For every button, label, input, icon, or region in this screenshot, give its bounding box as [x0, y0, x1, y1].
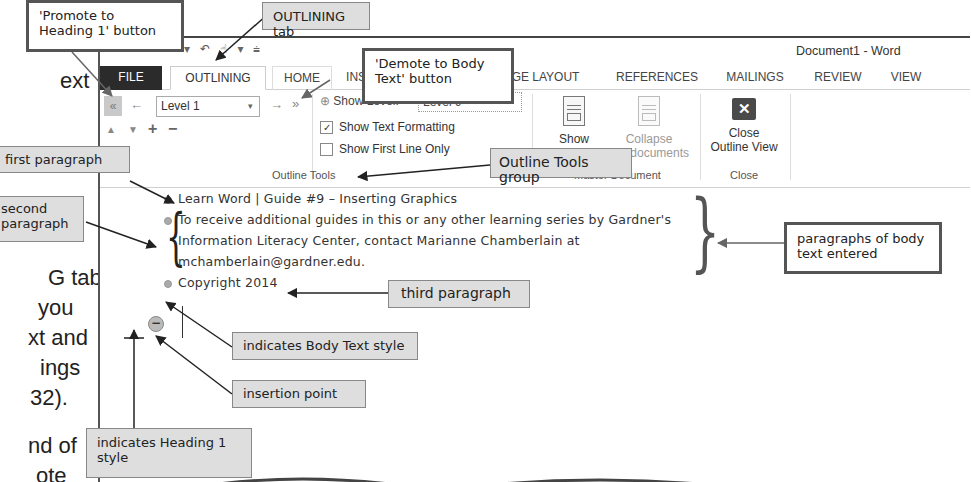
collapse-subdocuments-label: Collapse: [606, 132, 692, 146]
callout-outline-tools-group: Outline Tools group: [490, 148, 632, 178]
margin-line: you: [38, 295, 73, 321]
callout-outlining-tab: OUTLINING tab: [262, 2, 370, 30]
move-down-button[interactable]: ▼: [128, 124, 138, 135]
show-first-line-only-label: Show First Line Only: [339, 142, 450, 156]
tab-file[interactable]: FILE: [100, 66, 162, 90]
callout-second-paragraph: second paragraph: [0, 196, 84, 242]
paragraph-2-line-1[interactable]: To receive additional guides in this or …: [178, 209, 671, 230]
show-document-label: Show: [544, 132, 604, 146]
callout-second-paragraph-line1: second: [1, 201, 77, 216]
show-text-formatting-checkbox[interactable]: ✓ Show Text Formatting: [320, 120, 455, 134]
show-level-icon: ⊕: [320, 94, 330, 108]
paragraph-2-line-2[interactable]: Information Literacy Center, contact Mar…: [178, 230, 580, 251]
tab-mailings[interactable]: MAILINGS: [720, 66, 790, 90]
tab-home[interactable]: HOME: [272, 66, 332, 90]
promote-to-heading1-button[interactable]: «: [104, 96, 122, 116]
margin-line: ote: [36, 463, 67, 482]
callout-heading1-style: indicates Heading 1 style: [86, 428, 252, 478]
dropdown-icon[interactable]: ▾: [237, 42, 243, 56]
tab-view[interactable]: VIEW: [884, 66, 928, 90]
undo-icon[interactable]: ↶: [200, 42, 210, 56]
promote-button[interactable]: ←: [130, 97, 143, 112]
group-separator: [700, 94, 701, 180]
chevron-down-icon: ▾: [248, 97, 253, 116]
close-group-label: Close: [730, 169, 758, 181]
checkbox-unchecked-icon: [320, 143, 333, 156]
callout-first-paragraph: first paragraph: [0, 146, 130, 173]
callout-body-text-style: indicates Body Text style: [232, 332, 418, 360]
tab-outlining[interactable]: OUTLINING: [170, 66, 266, 90]
demote-button[interactable]: →: [270, 97, 283, 112]
callout-insertion-point: insertion point: [232, 380, 366, 408]
show-document-icon: [563, 96, 585, 126]
tab-references[interactable]: REFERENCES: [612, 66, 702, 90]
margin-line: nd of: [28, 433, 77, 459]
paragraph-1[interactable]: Learn Word | Guide #9 – Inserting Graphi…: [178, 188, 457, 209]
ribbon-tabs: FILE OUTLINING HOME INSERT DESIGN PAGE L…: [100, 64, 970, 90]
callout-demote-body-text: 'Demote to Body Text' button: [362, 48, 514, 104]
touch-mode-icon[interactable]: ☝: [220, 42, 227, 56]
margin-line: ext: [60, 68, 89, 94]
right-brace-bracket: }: [690, 188, 720, 274]
checkbox-checked-icon: ✓: [320, 121, 333, 134]
group-separator: [790, 94, 791, 180]
outline-tools-group-label: Outline Tools: [272, 169, 335, 181]
collapse-button[interactable]: −: [168, 120, 177, 138]
paragraph-2-line-3[interactable]: mchamberlain@gardner.edu.: [178, 251, 365, 272]
expand-button[interactable]: +: [148, 120, 157, 138]
show-text-formatting-label: Show Text Formatting: [339, 120, 455, 134]
margin-line: ings: [40, 355, 80, 381]
callout-paragraphs-body-text-entered: paragraphs of body text entered: [784, 222, 942, 274]
outline-level-select[interactable]: Level 1 ▾: [156, 96, 260, 117]
callout-promote-heading1: 'Promote to Heading 1' button: [26, 0, 184, 52]
title-bar: ▾ ↶ ☝ ▾ ⩧ Document1 - Word: [100, 38, 970, 64]
insertion-point: [182, 306, 183, 338]
body-text-bullet-icon: [164, 280, 172, 288]
close-outline-view-label-2: Outline View: [704, 140, 784, 154]
customize-qat-icon[interactable]: ⩧: [253, 42, 260, 56]
margin-line: G tab |: [48, 265, 100, 291]
heading1-collapse-icon[interactable]: −: [148, 316, 164, 332]
margin-line: 32).: [30, 385, 68, 411]
callout-third-paragraph: third paragraph: [388, 280, 530, 308]
window-title: Document1 - Word: [796, 44, 901, 58]
tab-review[interactable]: REVIEW: [808, 66, 868, 90]
show-first-line-only-checkbox[interactable]: Show First Line Only: [320, 142, 450, 156]
close-outline-view-label: Close: [704, 126, 784, 140]
quick-access-toolbar: ▾ ↶ ☝ ▾ ⩧: [184, 42, 260, 56]
margin-line: xt and: [28, 325, 88, 351]
group-separator: [312, 94, 313, 180]
demote-to-body-text-button[interactable]: »: [292, 96, 296, 111]
save-icon[interactable]: ▾: [184, 42, 190, 56]
paragraph-3[interactable]: Copyright 2014: [178, 272, 278, 293]
outline-level-value: Level 1: [161, 99, 200, 113]
collapse-subdocuments-icon: [638, 96, 660, 126]
close-icon: ✕: [732, 98, 756, 120]
move-up-button[interactable]: ▲: [106, 124, 116, 135]
close-outline-view-button[interactable]: ✕ Close Outline View: [704, 98, 784, 154]
callout-second-paragraph-line2: paragraph: [1, 216, 77, 231]
